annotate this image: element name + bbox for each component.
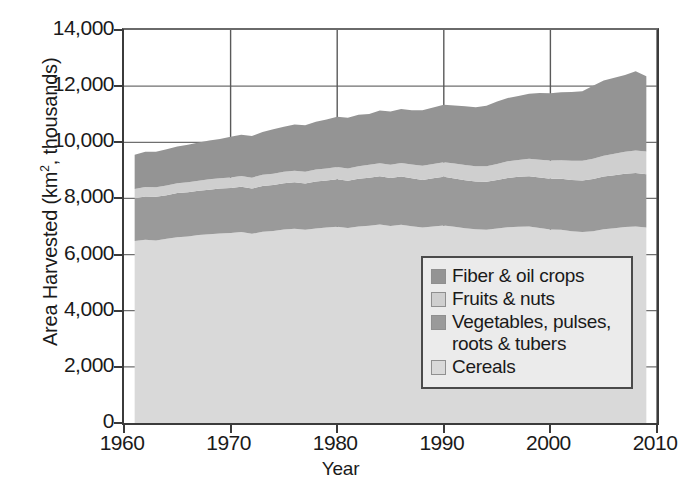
legend-item-label: Fruits & nuts	[452, 288, 555, 310]
legend-swatch-icon	[431, 315, 446, 330]
x-axis-tick-mark	[656, 423, 658, 433]
y-axis-tick-label: 2,000	[22, 354, 114, 375]
x-axis-tick-label: 1970	[184, 432, 274, 453]
x-axis-tick-label: 2000	[503, 432, 593, 453]
y-axis-tick-mark	[114, 29, 124, 31]
x-axis-tick-label: 1980	[290, 432, 380, 453]
x-axis-tick-mark	[549, 423, 551, 433]
x-axis-tick-label: 1960	[77, 432, 167, 453]
legend-item[interactable]: Fiber & oil crops	[431, 265, 623, 287]
y-axis-tick-label: 4,000	[22, 298, 114, 319]
y-axis-tick-mark	[114, 141, 124, 143]
y-axis-tick-labels: 14,00012,00010,0008,0006,0004,0002,0000	[8, 0, 114, 479]
chart-legend: Fiber & oil cropsFruits & nutsVegetables…	[421, 256, 633, 389]
x-axis-tick-mark	[336, 423, 338, 433]
y-axis-tick-label: 12,000	[22, 73, 114, 94]
x-axis-tick-label: 1990	[397, 432, 487, 453]
legend-item[interactable]: Cereals	[431, 356, 623, 378]
legend-item[interactable]: Fruits & nuts	[431, 288, 623, 310]
x-axis-title: Year	[0, 458, 681, 479]
x-axis-tick-mark	[230, 423, 232, 433]
y-axis-tick-label: 0	[22, 410, 114, 431]
x-axis-tick-mark	[443, 423, 445, 433]
legend-swatch-icon	[431, 269, 446, 284]
x-axis-tick-label: 2010	[610, 432, 681, 453]
y-axis-tick-label: 10,000	[22, 129, 114, 150]
legend-item-label: Fiber & oil crops	[452, 265, 584, 287]
legend-item-label: Vegetables, pulses,roots & tubers	[452, 311, 611, 355]
y-axis-tick-label: 14,000	[22, 17, 114, 38]
chart-figure: Area Harvested (km2, thousands) 14,00012…	[0, 0, 681, 479]
y-axis-tick-label: 6,000	[22, 242, 114, 263]
x-axis-tick-mark	[123, 423, 125, 433]
legend-item-label: Cereals	[452, 356, 515, 378]
y-axis-tick-label: 8,000	[22, 185, 114, 206]
legend-swatch-icon	[431, 292, 446, 307]
y-axis-tick-mark	[114, 254, 124, 256]
y-axis-tick-mark	[114, 366, 124, 368]
y-axis-tick-mark	[114, 197, 124, 199]
legend-swatch-icon	[431, 360, 446, 375]
y-axis-tick-mark	[114, 85, 124, 87]
legend-item[interactable]: Vegetables, pulses,roots & tubers	[431, 311, 623, 355]
y-axis-tick-mark	[114, 310, 124, 312]
